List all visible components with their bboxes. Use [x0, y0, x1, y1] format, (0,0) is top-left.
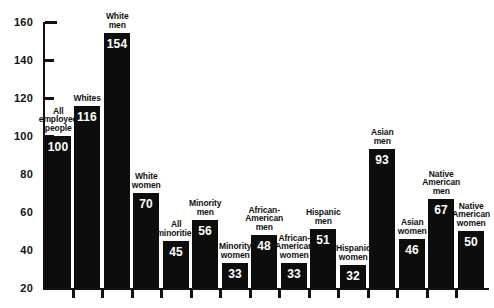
bar-label: Whitemen	[96, 12, 138, 29]
bar-label-line: women	[125, 181, 167, 190]
bar: 100	[45, 136, 71, 288]
bar: 46	[399, 239, 425, 288]
bar-value: 116	[74, 111, 100, 123]
x-tick-mark	[219, 290, 222, 298]
bar-label-line: women	[450, 219, 492, 228]
bar-label-line: Whites	[66, 94, 108, 103]
x-tick-mark	[101, 290, 104, 298]
bar-value: 56	[192, 225, 218, 237]
bar-value: 45	[163, 246, 189, 258]
bar-value: 33	[281, 268, 307, 280]
x-axis-line	[43, 288, 489, 290]
bar: 50	[458, 231, 484, 288]
bar-label-line: men	[302, 217, 344, 226]
x-tick-mark	[278, 290, 281, 298]
bar-label: Asianmen	[361, 128, 403, 145]
plot-area: 100Allemployedpeople116Whites154Whitemen…	[0, 0, 494, 308]
bar: 32	[340, 265, 366, 288]
bar-value: 70	[133, 198, 159, 210]
bar-value: 100	[45, 141, 71, 153]
bar-value: 46	[399, 244, 425, 256]
x-tick-mark	[190, 290, 193, 298]
x-tick-mark	[396, 290, 399, 298]
bar: 45	[163, 241, 189, 288]
x-tick-mark	[131, 290, 134, 298]
bar-label: Whitewomen	[125, 172, 167, 189]
x-tick-mark	[308, 290, 311, 298]
bar-label: African-Americanmen	[243, 206, 285, 232]
bar-label: Minoritymen	[184, 199, 226, 216]
bar-label-line: men	[243, 223, 285, 232]
bar-value: 33	[222, 268, 248, 280]
bar-value: 93	[369, 154, 395, 166]
bar-label: Hispanicmen	[302, 208, 344, 225]
x-tick-mark	[160, 290, 163, 298]
bar-label: Whites	[66, 94, 108, 103]
bar: 33	[281, 263, 307, 288]
bar-label-line: men	[361, 137, 403, 146]
x-tick-mark	[72, 290, 75, 298]
bar-label-line: men	[184, 208, 226, 217]
x-tick-mark	[455, 290, 458, 298]
bar-label-line: men	[96, 21, 138, 30]
x-tick-mark	[249, 290, 252, 298]
x-tick-mark	[367, 290, 370, 298]
bar-value: 50	[458, 236, 484, 248]
bar-value: 32	[340, 270, 366, 282]
bar-label: NativeAmericanwomen	[450, 202, 492, 228]
x-tick-mark	[337, 290, 340, 298]
bar: 116	[74, 106, 100, 288]
bar: 154	[104, 33, 130, 288]
bar: 33	[222, 263, 248, 288]
x-tick-mark	[426, 290, 429, 298]
bar-chart: 20406080100120140160 100Allemployedpeopl…	[0, 0, 494, 308]
bar-label: NativeAmericanmen	[420, 170, 462, 196]
bar-value: 154	[104, 38, 130, 50]
bar-label-line: men	[420, 187, 462, 196]
bar: 70	[133, 193, 159, 288]
